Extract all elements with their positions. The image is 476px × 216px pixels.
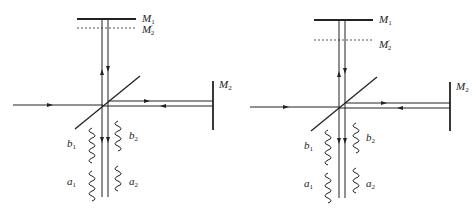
wave-b2	[115, 121, 121, 151]
input-arrow	[47, 103, 53, 107]
arrow-right	[381, 101, 387, 105]
diagram-right	[250, 20, 450, 203]
diagram-right-labels: M1 M′2 M2 b1 b2 a1 a2	[304, 13, 469, 191]
label-m1: M1	[378, 13, 392, 27]
input-arrow	[283, 105, 289, 109]
arrow-up	[337, 71, 341, 77]
arrow-up	[100, 69, 104, 75]
label-m2-prime: M′2	[378, 38, 392, 52]
label-m2: M2	[455, 80, 469, 94]
beam-splitter	[311, 77, 377, 131]
label-a1: a1	[304, 177, 314, 191]
label-m2: M2	[218, 78, 232, 92]
wave-a1	[325, 173, 331, 203]
label-b2: b2	[366, 131, 376, 145]
wave-a2	[115, 166, 121, 191]
label-a2: a2	[129, 175, 139, 189]
interferometer-figure: M1 M′2 M2 b1 b2 a1 a2 M1 M′2 M2 b1 b2	[0, 0, 476, 216]
wave-b2	[353, 123, 359, 153]
wave-b1	[325, 130, 331, 165]
arrow-down	[106, 66, 110, 72]
label-b1: b1	[67, 137, 77, 151]
wave-b1	[89, 128, 95, 163]
wave-a2	[353, 168, 359, 193]
label-a1: a1	[67, 175, 77, 189]
arrow-down-lower-1	[100, 137, 104, 143]
wave-a1	[89, 171, 95, 201]
arrow-right	[144, 99, 150, 103]
arrow-left	[397, 106, 403, 110]
label-a2: a2	[366, 177, 376, 191]
arrow-left	[160, 104, 166, 108]
label-b1: b1	[304, 139, 314, 153]
diagram-left	[13, 19, 213, 201]
label-b2: b2	[129, 129, 139, 143]
arrow-down-lower-2	[106, 137, 110, 143]
arrow-down-lower-2	[343, 138, 347, 144]
arrow-down-lower-1	[337, 138, 341, 144]
label-m2-prime: M′2	[141, 23, 155, 37]
arrow-down	[343, 68, 347, 74]
